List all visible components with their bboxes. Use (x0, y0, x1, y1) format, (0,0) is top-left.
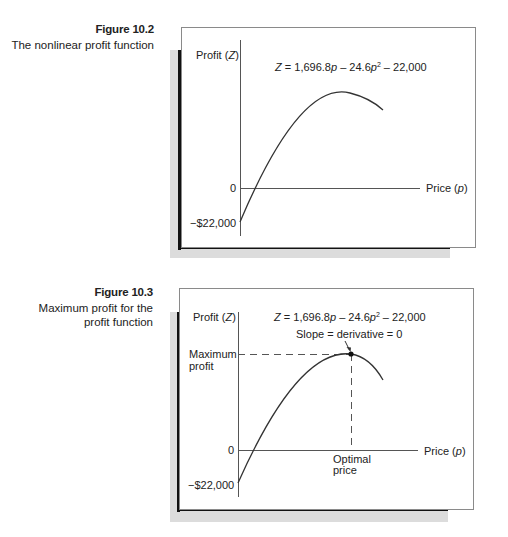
tick-zero: 0 (228, 444, 234, 456)
optimal-point (348, 351, 353, 356)
x-axis-label: Price (p) (424, 445, 466, 457)
max-profit-label: Maximum (189, 348, 237, 360)
tick-intercept: −$22,000 (188, 479, 234, 491)
equation-label: Z = 1,696.8p – 24.6p2 – 22,000 (273, 311, 426, 323)
max-profit-label-2: profit (189, 360, 213, 372)
figure-10-3-chart: Profit (Z) Z = 1,696.8p – 24.6p2 – 22,00… (0, 0, 508, 537)
slope-annotation: Slope = derivative = 0 (296, 328, 402, 340)
y-axis-label: Profit (Z) (193, 311, 236, 323)
arrow-head-icon (347, 347, 352, 352)
optimal-price-label-2: price (333, 464, 357, 476)
